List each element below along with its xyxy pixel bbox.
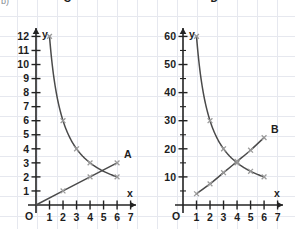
data-point-marker (262, 135, 267, 140)
data-point-marker (61, 189, 66, 194)
curve-label-A: A (124, 148, 132, 160)
x-tick-label: 4 (87, 211, 93, 223)
origin-label: O (25, 210, 33, 222)
series-B: B (194, 123, 279, 197)
y-tick-label: 30 (164, 114, 176, 126)
curve-path-B (197, 138, 265, 194)
y-tick-label: 7 (23, 100, 29, 112)
axes-group: xyO (172, 28, 283, 222)
x-ticks-group: 1234567 (194, 201, 281, 224)
x-tick-label: 7 (128, 211, 134, 223)
x-tick-label: 4 (234, 211, 240, 223)
data-point-marker (88, 175, 93, 180)
x-tick-label: 3 (221, 211, 227, 223)
right-chart-svg: xyO1234567102030405060DB (147, 0, 295, 229)
y-tick-label: 10 (17, 58, 29, 70)
left-chart-svg: xyO1234567123456789101112CA (0, 0, 148, 229)
x-tick-label: 5 (248, 211, 254, 223)
curve-path-D (197, 36, 265, 176)
x-tick-label: 6 (114, 211, 120, 223)
y-tick-label: 4 (23, 143, 29, 155)
left-chart-panel: xyO1234567123456789101112CA (0, 0, 148, 229)
y-tick-label: 20 (164, 143, 176, 155)
curve-label-C: C (64, 0, 72, 4)
y-tick-label: 10 (164, 171, 176, 183)
curve-path-A (36, 163, 117, 205)
data-point-marker (115, 160, 120, 165)
y-ticks-group: 123456789101112 (17, 30, 40, 197)
y-tick-label: 12 (17, 30, 29, 42)
y-tick-label: 1 (23, 185, 29, 197)
curve-label-D: D (211, 0, 219, 4)
y-tick-label: 50 (164, 58, 176, 70)
series-C: C (47, 0, 119, 179)
x-ticks-group: 1234567 (47, 201, 134, 224)
y-tick-label: 9 (23, 72, 29, 84)
x-axis-label: x (127, 187, 133, 199)
x-tick-label: 7 (275, 211, 281, 223)
curve-path-C (50, 36, 118, 176)
x-tick-label: 5 (101, 211, 107, 223)
data-point-marker (221, 146, 226, 151)
y-tick-label: 2 (23, 171, 29, 183)
right-chart-panel: xyO1234567102030405060DB (147, 0, 295, 229)
series-D: D (194, 0, 266, 179)
x-tick-label: 6 (261, 211, 267, 223)
x-axis-label: x (274, 187, 280, 199)
y-tick-label: 60 (164, 30, 176, 42)
x-tick-label: 1 (194, 211, 200, 223)
y-ticks-group: 102030405060 (164, 30, 187, 191)
data-point-marker (88, 160, 93, 165)
x-tick-label: 2 (207, 211, 213, 223)
axes-group: xyO (25, 28, 136, 222)
y-tick-label: 40 (164, 86, 176, 98)
data-point-marker (221, 170, 226, 175)
y-tick-label: 3 (23, 157, 29, 169)
data-point-marker (208, 182, 213, 187)
y-tick-label: 6 (23, 114, 29, 126)
y-axis-arrow-icon (33, 28, 40, 34)
y-tick-label: 5 (23, 128, 29, 140)
data-point-marker (74, 146, 79, 151)
y-tick-label: 11 (18, 44, 29, 56)
y-axis-arrow-icon (180, 28, 187, 34)
curve-label-B: B (271, 123, 279, 135)
y-tick-label: 8 (23, 86, 29, 98)
x-tick-label: 1 (47, 211, 53, 223)
x-tick-label: 2 (60, 211, 66, 223)
x-tick-label: 3 (74, 211, 80, 223)
data-point-marker (194, 191, 199, 196)
data-point-marker (248, 148, 253, 153)
origin-label: O (172, 210, 180, 222)
